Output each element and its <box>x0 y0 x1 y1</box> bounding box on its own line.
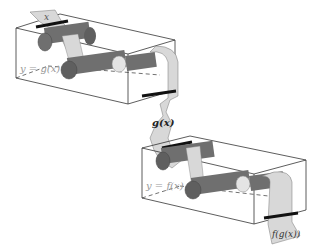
composition-diagram: y = g(x) x g(x) y = f(x) f( <box>0 0 318 247</box>
machine-g-label: y = g(x) <box>19 63 60 74</box>
output-label: f(g(x)) <box>271 229 301 239</box>
intermediate-label: g(x) <box>152 117 175 128</box>
machine-f: y = f(x) f(g(x)) <box>142 136 306 244</box>
machine-f-label: y = f(x) <box>145 180 184 191</box>
input-label: x <box>44 12 49 22</box>
